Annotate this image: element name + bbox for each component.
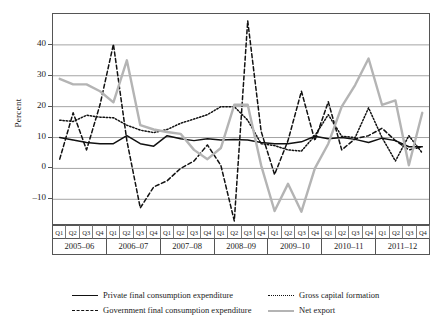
legend-label: Net export — [299, 305, 335, 315]
legend-item-private-final-consumption-expenditure: Private final consumption expenditure — [72, 290, 268, 300]
x-tick-quarter: Q2 — [390, 225, 403, 239]
x-tick-year: 2007–08 — [161, 239, 215, 255]
x-tick-quarter: Q4 — [93, 225, 106, 239]
legend-line-sample — [268, 291, 294, 299]
legend-label: Private final consumption expenditure — [103, 290, 233, 300]
x-tick-quarter: Q3 — [188, 225, 201, 239]
series-net-export — [60, 58, 423, 211]
x-tick-quarter: Q4 — [201, 225, 214, 239]
x-tick-quarter: Q3 — [242, 225, 255, 239]
x-tick-quarter: Q2 — [120, 225, 133, 239]
legend-item-government-final-consumption-expenditure: Government final consumption expenditure — [72, 305, 268, 315]
x-tick-quarter: Q3 — [295, 225, 308, 239]
x-tick-quarter: Q2 — [174, 225, 187, 239]
x-tick-year: 2006–07 — [107, 239, 161, 255]
y-axis-label: Percent — [13, 73, 23, 153]
x-tick-quarter: Q1 — [376, 225, 389, 239]
x-tick-quarter: Q3 — [134, 225, 147, 239]
series-government-final-consumption-expenditure — [60, 21, 423, 221]
x-axis-quarter-row: Q1Q2Q3Q4Q1Q2Q3Q4Q1Q2Q3Q4Q1Q2Q3Q4Q1Q2Q3Q4… — [52, 225, 430, 239]
x-tick-year: 2011–12 — [376, 239, 430, 255]
figure-container: Percent –10010203040 Q1Q2Q3Q4Q1Q2Q3Q4Q1Q… — [0, 0, 447, 329]
x-tick-quarter: Q1 — [161, 225, 174, 239]
x-axis-year-row: 2005–062006–072007–082008–092009–102010–… — [52, 239, 430, 255]
y-tick-label: 20 — [6, 101, 46, 110]
y-tick-label: 10 — [6, 132, 46, 141]
x-tick-quarter: Q4 — [309, 225, 322, 239]
x-tick-quarter: Q2 — [66, 225, 79, 239]
plot-area — [52, 13, 430, 225]
x-tick-quarter: Q2 — [336, 225, 349, 239]
x-tick-year: 2008–09 — [215, 239, 269, 255]
x-tick-quarter: Q4 — [147, 225, 160, 239]
x-tick-quarter: Q2 — [282, 225, 295, 239]
y-tick-label: 0 — [6, 162, 46, 171]
x-tick-quarter: Q1 — [322, 225, 335, 239]
legend-label: Gross capital formation — [299, 290, 379, 300]
y-tick-label: 30 — [6, 70, 46, 79]
legend-line-sample — [72, 306, 98, 314]
legend-item-gross-capital-formation: Gross capital formation — [268, 290, 432, 300]
legend-line-sample — [72, 291, 98, 299]
legend-line-sample — [268, 306, 294, 314]
y-tick-label: –10 — [6, 193, 46, 202]
x-tick-year: 2010–11 — [322, 239, 376, 255]
x-tick-quarter: Q2 — [228, 225, 241, 239]
x-tick-quarter: Q1 — [53, 225, 66, 239]
x-tick-quarter: Q4 — [363, 225, 376, 239]
legend-label: Government final consumption expenditure — [103, 305, 251, 315]
x-tick-year: 2005–06 — [53, 239, 107, 255]
legend: Private final consumption expenditureGro… — [72, 287, 432, 317]
x-tick-quarter: Q4 — [417, 225, 430, 239]
series-canvas — [53, 14, 429, 224]
legend-item-net-export: Net export — [268, 305, 432, 315]
x-tick-quarter: Q4 — [255, 225, 268, 239]
x-tick-quarter: Q1 — [107, 225, 120, 239]
x-tick-year: 2009–10 — [268, 239, 322, 255]
x-tick-quarter: Q1 — [269, 225, 282, 239]
x-tick-quarter: Q3 — [403, 225, 416, 239]
x-tick-quarter: Q3 — [349, 225, 362, 239]
x-tick-quarter: Q1 — [215, 225, 228, 239]
y-tick-label: 40 — [6, 39, 46, 48]
x-tick-quarter: Q3 — [80, 225, 93, 239]
